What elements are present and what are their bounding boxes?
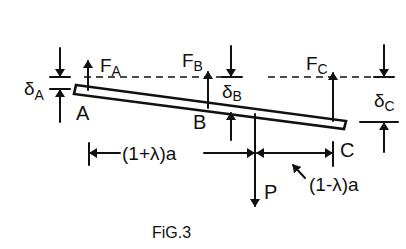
deflection-a-indicator — [50, 48, 70, 122]
left-span-label: (1+λ)a — [122, 143, 177, 164]
deflection-b-label: δB — [222, 81, 242, 104]
right-span-dimension — [257, 142, 333, 178]
force-a-label: FA — [100, 55, 122, 79]
point-b-label: B — [193, 111, 206, 133]
point-a-label: A — [76, 102, 90, 124]
right-span-label: (1-λ)a — [309, 174, 359, 195]
force-b-label: FB — [182, 50, 203, 74]
load-p-label: P — [264, 181, 277, 203]
figure-caption: FiG.3 — [152, 224, 191, 241]
tilted-beam — [74, 85, 346, 129]
beam-deflection-diagram: δA FA A FB B δB P FC C δC (1+λ)a — [0, 0, 406, 249]
deflection-c-label: δC — [374, 90, 395, 114]
force-c-label: FC — [306, 53, 328, 77]
deflection-a-label: δA — [24, 78, 45, 103]
point-c-label: C — [340, 139, 354, 161]
